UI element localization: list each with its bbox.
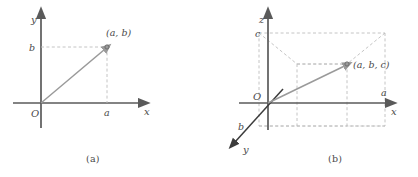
origin-label: O — [31, 108, 39, 119]
construction-box — [259, 33, 385, 126]
box-edge-top-left-diagonal — [259, 33, 297, 64]
figure-panel-a: x y O a b (a, b) — [0, 0, 209, 177]
x-axis-label: x — [391, 106, 397, 117]
position-vector — [268, 66, 345, 103]
z-axis-label: z — [258, 14, 265, 25]
tick-label-b: b — [238, 121, 244, 132]
caption-panel-a: (a) — [86, 153, 100, 164]
x-axis-label: x — [144, 106, 150, 117]
point-coordinate-label: (a, b, c) — [353, 59, 390, 70]
caption-panel-b: (b) — [328, 153, 342, 164]
position-vector — [41, 50, 105, 104]
x-axis: x — [239, 103, 397, 117]
y-axis-label: y — [30, 14, 37, 25]
origin-label: O — [253, 91, 261, 102]
figure-panel-b: x z y O c b a (a, b, c) — [209, 0, 418, 177]
tick-label-b: b — [29, 42, 35, 53]
point-coordinate-label: (a, b) — [106, 27, 131, 38]
tick-label-a: a — [381, 87, 387, 98]
y-axis-label: y — [242, 144, 249, 155]
figure-sheet: x y O a b (a, b) — [0, 0, 418, 177]
tick-label-a: a — [104, 107, 110, 118]
tick-label-c: c — [255, 28, 261, 39]
